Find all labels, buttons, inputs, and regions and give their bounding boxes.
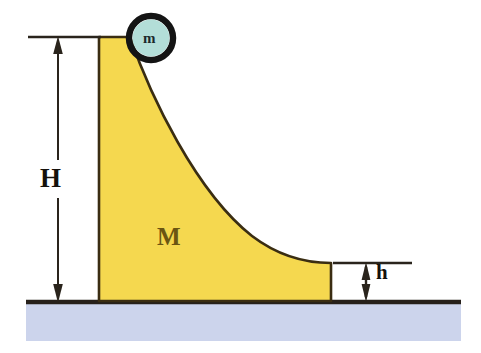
step-arrow-head-down: [362, 284, 371, 302]
physics-diagram: H h M m: [0, 0, 481, 353]
step-height-label-h: h: [376, 262, 388, 283]
ramp-block: [99, 37, 331, 301]
step-arrow-head-up: [362, 262, 371, 280]
diagram-canvas: [0, 0, 481, 353]
height-label-H: H: [40, 165, 61, 192]
ramp-mass-label-M: M: [157, 224, 181, 249]
ground-band: [26, 303, 461, 341]
height-arrow-head-up: [53, 36, 63, 54]
ball-mass-label-m: m: [143, 31, 156, 46]
